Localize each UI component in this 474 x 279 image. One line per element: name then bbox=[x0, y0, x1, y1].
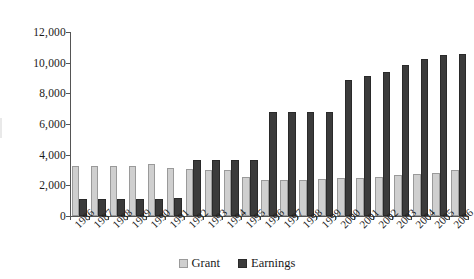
bar-group bbox=[70, 32, 89, 216]
bar-earnings bbox=[459, 54, 467, 216]
bar-grant bbox=[91, 166, 99, 216]
bar-group bbox=[335, 32, 354, 216]
bar-group bbox=[411, 32, 430, 216]
bar-earnings bbox=[402, 65, 410, 216]
y-axis-labels: 02,0004,0006,0008,00010,00012,000 bbox=[0, 0, 66, 279]
bar-group bbox=[430, 32, 449, 216]
bar-group bbox=[165, 32, 184, 216]
legend-label-grant: Grant bbox=[192, 256, 220, 271]
bar-group bbox=[278, 32, 297, 216]
y-axis-tick-label: 12,000 bbox=[33, 26, 66, 38]
bar-earnings bbox=[288, 112, 296, 216]
bar-group bbox=[449, 32, 468, 216]
bar-group bbox=[222, 32, 241, 216]
legend-item-grant: Grant bbox=[179, 256, 220, 271]
plot-area bbox=[70, 32, 468, 216]
bar-grant bbox=[451, 170, 459, 216]
bar-group bbox=[89, 32, 108, 216]
bar-earnings bbox=[345, 80, 353, 216]
bar-group bbox=[108, 32, 127, 216]
bar-grant bbox=[129, 166, 137, 216]
y-axis-tick-label: 2,000 bbox=[39, 179, 66, 191]
y-axis-tick-label: 4,000 bbox=[39, 149, 66, 161]
legend-swatch-earnings-icon bbox=[238, 259, 247, 268]
bar-grant bbox=[148, 164, 156, 216]
bar-group bbox=[184, 32, 203, 216]
y-axis-tick-label: 8,000 bbox=[39, 87, 66, 99]
bar-earnings bbox=[364, 76, 372, 216]
legend-label-earnings: Earnings bbox=[251, 256, 295, 271]
legend-swatch-grant-icon bbox=[179, 259, 188, 268]
y-axis-tick-label: 6,000 bbox=[39, 118, 66, 130]
bar-group bbox=[241, 32, 260, 216]
legend: Grant Earnings bbox=[0, 256, 474, 271]
bar-group bbox=[127, 32, 146, 216]
bar-group bbox=[297, 32, 316, 216]
y-axis-tick-label: 10,000 bbox=[33, 57, 66, 69]
bar-group bbox=[203, 32, 222, 216]
bar-earnings bbox=[440, 55, 448, 216]
bar-group bbox=[146, 32, 165, 216]
bar-earnings bbox=[383, 72, 391, 216]
bar-earnings bbox=[421, 59, 429, 216]
bar-grant bbox=[110, 166, 118, 216]
bar-group bbox=[354, 32, 373, 216]
bar-group bbox=[392, 32, 411, 216]
bar-series-container bbox=[70, 32, 468, 216]
bar-earnings bbox=[326, 112, 334, 216]
bar-chart: 02,0004,0006,0008,00010,00012,000 198619… bbox=[0, 0, 474, 279]
x-axis-tick-mark bbox=[70, 216, 71, 220]
bar-group bbox=[316, 32, 335, 216]
bar-earnings bbox=[269, 112, 277, 216]
bar-grant bbox=[72, 166, 80, 216]
legend-item-earnings: Earnings bbox=[238, 256, 295, 271]
bar-earnings bbox=[307, 112, 315, 216]
bar-group bbox=[260, 32, 279, 216]
bar-group bbox=[373, 32, 392, 216]
bar-grant bbox=[186, 169, 194, 216]
bar-grant bbox=[167, 168, 175, 216]
